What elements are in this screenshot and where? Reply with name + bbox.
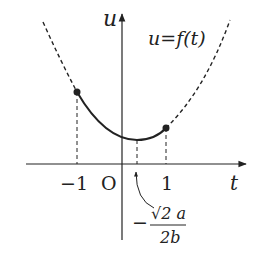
vertex-numerator: √2 a (151, 204, 186, 223)
u-axis-label: u (103, 6, 117, 31)
origin-label: O (101, 172, 117, 194)
point-one (163, 125, 170, 132)
vertex-sign: − (132, 211, 148, 233)
curve-dashed-left (43, 22, 77, 92)
tick-label-minus-one: −1 (60, 172, 88, 194)
function-graph: u t u=f(t) −1 O 1 − √2 a 2b (0, 0, 258, 260)
vertex-denominator: 2b (159, 228, 180, 247)
vertex-pointer-arrow (136, 172, 154, 208)
tick-label-one: 1 (161, 172, 173, 194)
curve-label: u=f(t) (148, 27, 206, 49)
t-axis-label: t (230, 171, 239, 195)
point-minus-one (74, 89, 81, 96)
